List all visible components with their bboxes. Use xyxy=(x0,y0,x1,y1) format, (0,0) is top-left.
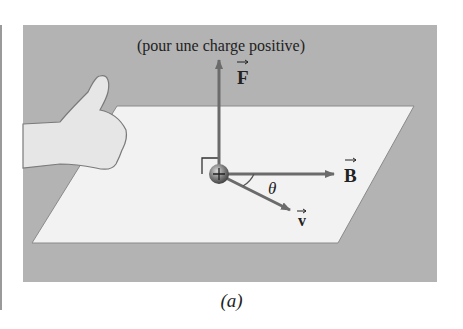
velocity-label: v xyxy=(298,212,306,229)
caption-text: (a) xyxy=(220,290,242,311)
field-label: B xyxy=(344,165,357,186)
figure-caption: (a) xyxy=(0,290,463,312)
force-label: F xyxy=(237,67,249,88)
angle-label: θ xyxy=(268,179,276,198)
right-hand-rule-diagram: (pour une charge positive) F B v θ xyxy=(0,0,463,329)
diagram-title: (pour une charge positive) xyxy=(137,37,305,55)
